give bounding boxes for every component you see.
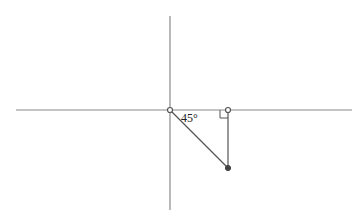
origin-point xyxy=(168,108,173,113)
hypotenuse-segment xyxy=(170,110,228,168)
endpoint-point xyxy=(225,165,230,170)
diagram-canvas: 45° xyxy=(0,0,364,223)
foot-point xyxy=(226,108,231,113)
angle-label: 45° xyxy=(181,111,198,125)
